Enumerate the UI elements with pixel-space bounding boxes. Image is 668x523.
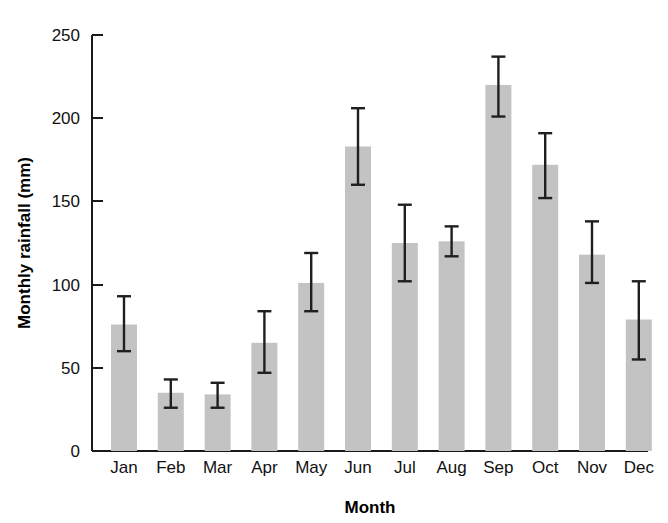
x-tick-label: May xyxy=(295,458,328,477)
y-axis-ticks: 050100150200250 xyxy=(52,26,103,461)
x-tick-label: Apr xyxy=(251,458,278,477)
x-tick-label: Feb xyxy=(156,458,185,477)
x-tick-label: Jul xyxy=(394,458,416,477)
rainfall-bar-chart: Monthly rainfall (mm) Month 050100150200… xyxy=(0,0,668,523)
x-axis-title: Month xyxy=(345,498,396,517)
bar xyxy=(532,165,558,451)
bar xyxy=(345,146,371,451)
x-tick-label: Mar xyxy=(203,458,233,477)
x-tick-label: Jan xyxy=(110,458,137,477)
error-bars-group xyxy=(117,57,646,408)
bar xyxy=(439,241,465,451)
y-axis-title: Monthly rainfall (mm) xyxy=(15,157,34,329)
x-tick-label: Dec xyxy=(624,458,655,477)
y-tick-label: 200 xyxy=(52,109,80,128)
bar xyxy=(485,85,511,451)
x-tick-label: Jun xyxy=(344,458,371,477)
bars-group xyxy=(111,85,652,451)
x-tick-label: Oct xyxy=(532,458,559,477)
x-tick-label: Aug xyxy=(436,458,466,477)
y-tick-label: 0 xyxy=(71,442,80,461)
y-tick-label: 150 xyxy=(52,192,80,211)
x-axis-category-labels: JanFebMarAprMayJunJulAugSepOctNovDec xyxy=(110,458,654,477)
y-tick-label: 100 xyxy=(52,276,80,295)
x-tick-label: Sep xyxy=(483,458,513,477)
y-tick-label: 250 xyxy=(52,26,80,45)
y-tick-label: 50 xyxy=(61,359,80,378)
x-tick-label: Nov xyxy=(577,458,608,477)
chart-canvas: Monthly rainfall (mm) Month 050100150200… xyxy=(0,0,668,523)
